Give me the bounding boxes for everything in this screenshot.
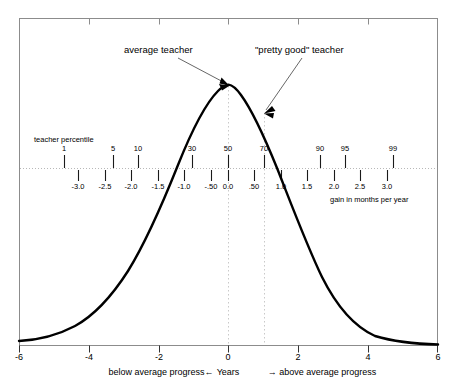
gain-tick-label-9: 1.5 — [302, 183, 312, 191]
footer-below-average: below average progress← — [108, 368, 213, 377]
footer-above-average: → above average progress — [268, 368, 377, 377]
gain-tick-label-8: 1.0 — [276, 183, 286, 191]
x-axis-tick-label-0: -6 — [15, 353, 23, 362]
x-axis-tick-label-6: 6 — [435, 353, 440, 362]
x-axis-tick-label-1: -4 — [85, 353, 93, 362]
percentile-tick-label-2: 10 — [134, 145, 142, 153]
percentile-tick-marks — [65, 155, 394, 168]
top-axis-ticks — [90, 19, 369, 25]
average-teacher-leader — [178, 58, 230, 91]
gain-tick-label-6: 0.0 — [223, 183, 233, 191]
annotation-average-teacher: average teacher — [124, 45, 193, 55]
percentile-tick-label-1: 5 — [111, 145, 115, 153]
figure-container: teacher percentile gain in months per ye… — [0, 0, 454, 386]
x-axis-tick-label-2: -2 — [155, 353, 163, 362]
percentile-tick-label-0: 1 — [62, 145, 66, 153]
teacher-percentile-caption: teacher percentile — [34, 136, 94, 144]
percentile-tick-label-5: 70 — [260, 145, 268, 153]
footer-years: Years — [217, 368, 240, 377]
bell-curve-chart — [0, 0, 454, 386]
gain-tick-label-11: 2.5 — [355, 183, 365, 191]
gain-caption: gain in months per year — [330, 196, 408, 204]
gain-tick-label-7: .50 — [249, 183, 259, 191]
gain-tick-label-10: 2.0 — [329, 183, 339, 191]
gain-tick-marks — [79, 170, 388, 181]
gain-tick-label-12: 3.0 — [382, 183, 392, 191]
annotation-pretty-good-teacher: "pretty good" teacher — [255, 45, 344, 55]
x-axis-tick-label-3: 0 — [225, 353, 230, 362]
percentile-tick-label-4: 50 — [224, 145, 232, 153]
percentile-tick-label-3: 30 — [188, 145, 196, 153]
gain-tick-label-4: -1.0 — [178, 183, 191, 191]
percentile-tick-label-8: 99 — [389, 145, 397, 153]
gain-tick-label-0: -3.0 — [72, 183, 85, 191]
gain-tick-label-5: -.50 — [205, 183, 218, 191]
gain-tick-label-2: -2.0 — [125, 183, 138, 191]
gain-tick-label-1: -2.5 — [99, 183, 112, 191]
percentile-tick-label-6: 90 — [316, 145, 324, 153]
x-axis-tick-label-5: 4 — [365, 353, 370, 362]
pretty-good-teacher-leader — [264, 58, 302, 119]
gain-tick-label-3: -1.5 — [152, 183, 165, 191]
percentile-tick-label-7: 95 — [341, 145, 349, 153]
x-axis-tick-label-4: 2 — [295, 353, 300, 362]
